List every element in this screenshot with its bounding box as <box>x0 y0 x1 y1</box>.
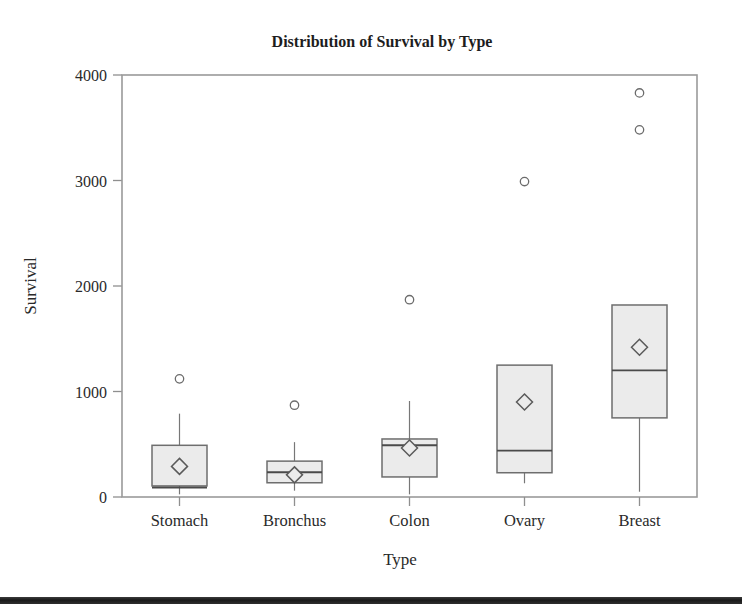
page-edge-artifact <box>0 597 742 604</box>
y-tick-label: 0 <box>99 489 107 506</box>
x-tick-label-stomach: Stomach <box>151 511 209 530</box>
x-axis-title: Type <box>383 550 417 569</box>
x-tick-label-ovary: Ovary <box>504 511 546 530</box>
y-tick-label: 1000 <box>75 384 107 401</box>
x-tick-label-bronchus: Bronchus <box>263 511 326 530</box>
y-tick-label: 4000 <box>75 67 107 84</box>
y-axis-title: Survival <box>21 257 40 315</box>
y-tick-label: 2000 <box>75 278 107 295</box>
chart-title: Distribution of Survival by Type <box>272 33 493 51</box>
box-iqr <box>497 365 552 473</box>
y-tick-label: 3000 <box>75 173 107 190</box>
x-tick-label-breast: Breast <box>618 511 661 530</box>
boxplot-figure: Distribution of Survival by Type Surviva… <box>0 0 742 604</box>
box-iqr <box>612 305 667 418</box>
x-tick-label-colon: Colon <box>389 511 429 530</box>
